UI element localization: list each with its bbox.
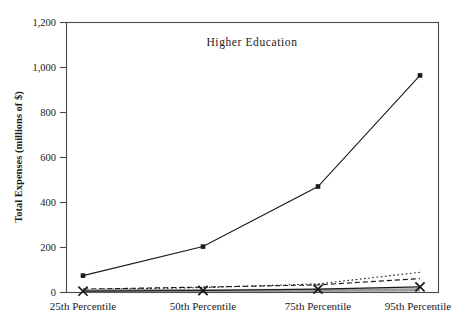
data-point-marker — [316, 184, 321, 189]
data-point-marker — [81, 273, 86, 278]
x-tick-label-50th: 50th Percentile — [170, 300, 236, 312]
y-tick-label-200: 200 — [40, 242, 56, 253]
y-tick-label-800: 800 — [40, 107, 56, 118]
y-tick-label-400: 400 — [40, 197, 56, 208]
chart-container: 1,200 1,000 800 600 400 200 0 Total Expe… — [0, 0, 465, 332]
x-tick-label-95th: 95th Percentile — [385, 300, 451, 312]
y-tick-label-600: 600 — [40, 152, 56, 163]
x-tick-label-75th: 75th Percentile — [285, 300, 351, 312]
chart-background — [0, 0, 465, 332]
data-point-marker — [201, 244, 206, 249]
y-tick-label-1000: 1,000 — [32, 62, 56, 73]
higher-education-line-chart: 1,200 1,000 800 600 400 200 0 Total Expe… — [0, 0, 465, 332]
y-axis-title: Total Expenses (millions of $) — [13, 91, 25, 223]
data-point-marker — [418, 73, 423, 78]
x-tick-label-25th: 25th Percentile — [50, 300, 116, 312]
y-tick-label-0: 0 — [51, 287, 56, 298]
y-tick-label-1200: 1,200 — [32, 17, 56, 28]
chart-title: Higher Education — [206, 36, 297, 49]
